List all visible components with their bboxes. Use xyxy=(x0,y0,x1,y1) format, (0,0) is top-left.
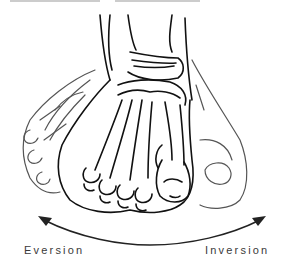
arrowhead-left xyxy=(38,216,52,226)
inversion-label: Inversion xyxy=(205,244,269,256)
rotation-arrow xyxy=(38,216,266,245)
arrowhead-right xyxy=(252,216,266,226)
foot-rotation-diagram: Eversion Inversion xyxy=(0,0,285,273)
inverted-foot-outline xyxy=(192,60,247,208)
neutral-foot-skeleton xyxy=(58,15,193,212)
foot-skeleton-illustration xyxy=(0,0,285,273)
eversion-label: Eversion xyxy=(24,244,84,256)
